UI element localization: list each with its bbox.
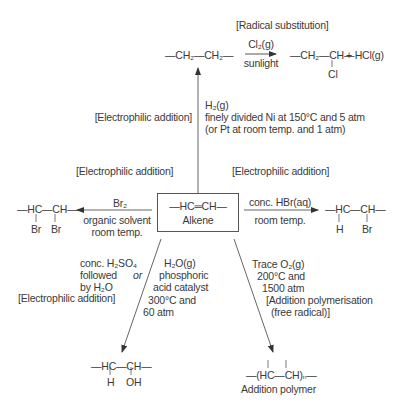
steam-route-line-2: phosphoric <box>159 269 208 281</box>
alcohol-product: —HC—CH— <box>91 360 151 372</box>
chlorine-reagent: Cl₂(g) <box>244 38 278 50</box>
sulfuric-acid-route-line-2: followed <box>80 269 117 281</box>
nickel-catalyst-condition: finely divided Ni at 150°C and 5 atm <box>205 111 365 123</box>
radical-substitution-label: [Radical substitution] <box>236 19 328 31</box>
room-temp-condition-left: room temp. <box>82 226 152 238</box>
alkene-reactions-diagram: [Radical substitution] —CH₂—CH₂— Cl₂(g) … <box>0 0 401 408</box>
alkane-reactant: —CH₂—CH₂— <box>165 49 233 61</box>
polymerisation-mechanism-line-1: [Addition polymerisation <box>266 294 373 306</box>
bromoalkane-product: —HC—CH— <box>325 203 385 215</box>
or-connector: or <box>133 269 142 281</box>
steam-route-line-1: H₂O(g) <box>164 257 195 269</box>
polymerisation-mechanism-line-2: (free radical)] <box>271 306 330 318</box>
sulfuric-acid-route-line-1: conc. H₂SO₄ <box>80 257 137 269</box>
steam-route-line-3: acid catalyst <box>153 281 208 293</box>
bromo-substituent-2: Br <box>51 223 61 235</box>
alkene-formula: —HC═CH— <box>158 200 238 212</box>
organic-solvent-condition: organic solvent <box>82 214 152 226</box>
bromo-substituent: Br <box>362 223 372 235</box>
bromination-mechanism: [Electrophilic addition] <box>76 165 173 177</box>
alcohol-hydrogen-substituent: H <box>107 376 114 388</box>
sunlight-condition: sunlight <box>240 57 282 69</box>
steam-route-line-4: 300°C and <box>148 294 196 306</box>
room-temp-condition-right: room temp. <box>244 214 316 226</box>
hcl-byproduct: + HCl(g) <box>346 49 384 61</box>
bromine-reagent: Br₂ <box>90 197 150 209</box>
hydrogenation-mechanism: [Electrophilic addition] <box>80 111 192 123</box>
alkene-box: —HC═CH— Alkene <box>157 193 239 232</box>
polymer-product: —(HC—CH)ₙ— <box>246 369 317 381</box>
hydrogen-reagent: H₂(g) <box>205 99 229 111</box>
hydration-mechanism: [Electrophilic addition] <box>18 292 115 304</box>
hbr-mechanism: [Electrophilic addition] <box>232 165 329 177</box>
dibromo-product: —HC—CH— <box>17 203 77 215</box>
alkene-label: Alkene <box>158 214 238 226</box>
addition-polymer-label: Addition polymer <box>241 383 316 395</box>
polymer-temperature-condition: 200°C and <box>257 270 305 282</box>
platinum-catalyst-condition: (or Pt at room temp. and 1 atm) <box>205 123 345 135</box>
chloro-substituent: Cl <box>328 68 338 80</box>
hbr-reagent: conc. HBr(aq) <box>244 196 316 208</box>
chloroalkane-product: —CH₂—CH— <box>290 49 354 61</box>
oxygen-trace-reagent: Trace O₂(g) <box>252 258 304 270</box>
polymer-pressure-condition: 1500 atm <box>262 282 304 294</box>
hydrogen-substituent: H <box>336 223 343 235</box>
hydroxyl-substituent: OH <box>126 376 141 388</box>
bromo-substituent-1: Br <box>31 223 41 235</box>
steam-route-line-5: 60 atm <box>143 306 174 318</box>
